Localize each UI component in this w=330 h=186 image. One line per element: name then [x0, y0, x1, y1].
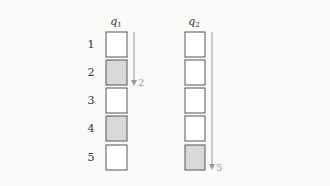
row-label-1: 1: [88, 38, 95, 51]
queue-cell: [106, 145, 127, 170]
queue-cell-shaded: [106, 116, 127, 141]
queue-cell: [185, 32, 205, 57]
row-label-5: 5: [88, 151, 95, 164]
queue-cell: [106, 32, 127, 57]
row-label-2: 2: [88, 66, 95, 79]
queue-cell: [185, 60, 205, 85]
arrow-label-q1: 2: [138, 77, 144, 88]
arrow-label-q2: 5: [216, 162, 222, 173]
row-labels: 1 2 3 4 5: [88, 38, 95, 164]
queue-cell-shaded: [106, 60, 127, 85]
column-q2: q2 5: [185, 15, 222, 173]
column-title-q1: q1: [110, 15, 122, 29]
queue-cell-shaded: [185, 145, 205, 170]
column-q1: q1 2: [106, 15, 144, 170]
diagram-canvas: 1 2 3 4 5 q1 2 q2 5: [0, 0, 330, 186]
column-title-q2: q2: [188, 15, 200, 29]
queue-cell: [185, 116, 205, 141]
queue-scan-diagram: 1 2 3 4 5 q1 2 q2 5: [0, 0, 330, 186]
row-label-4: 4: [88, 122, 95, 135]
queue-cell: [185, 88, 205, 113]
row-label-3: 3: [88, 94, 95, 107]
queue-cell: [106, 88, 127, 113]
